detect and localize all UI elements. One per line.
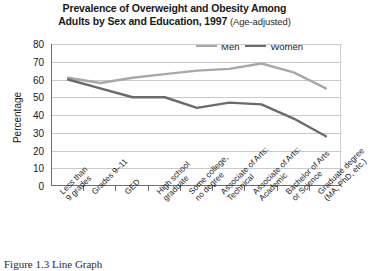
y-axis-tick-70: 70: [33, 56, 44, 67]
y-axis-tick-30: 30: [33, 127, 44, 138]
y-axis-tick-80: 80: [33, 39, 44, 50]
series-line-men: [68, 64, 326, 89]
chart-title-line-1: Prevalence of Overweight and Obesity Amo…: [0, 2, 349, 15]
y-axis-tick-40: 40: [33, 110, 44, 121]
y-axis-tick-50: 50: [33, 92, 44, 103]
chart-title-note: (Age-adjusted): [230, 16, 291, 27]
y-axis-title: Percentage: [12, 63, 23, 173]
y-axis-tick-20: 20: [33, 145, 44, 156]
figure-caption: Figure 1.3 Line Graph: [4, 258, 102, 270]
y-axis-tick-10: 10: [33, 163, 44, 174]
y-axis-tick-labels: 80706050403020100: [0, 38, 48, 190]
chart-title-line-2: Adults by Sex and Education, 1997 (Age-a…: [0, 15, 349, 28]
x-axis-tick-labels: Less than9 gradesGrades 9–11GEDHigh scho…: [0, 188, 349, 268]
chart-title-main: Adults by Sex and Education, 1997: [58, 15, 227, 27]
y-axis-tick-60: 60: [33, 74, 44, 85]
chart-title-block: Prevalence of Overweight and Obesity Amo…: [0, 2, 349, 28]
series-line-women: [68, 80, 326, 137]
